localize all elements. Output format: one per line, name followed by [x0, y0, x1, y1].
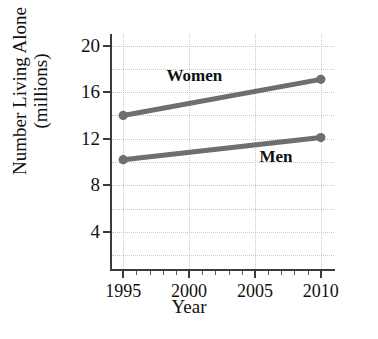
- data-point-men-2010: [316, 133, 325, 142]
- x-axis-title: Year: [0, 296, 378, 318]
- y-axis-title-line-2: (millions): [31, 54, 52, 129]
- y-axis-tick-label: 12: [81, 128, 100, 150]
- line-chart-figure: g Number Living Alone (millions) WomenMe…: [0, 0, 378, 339]
- plot-area: WomenMen 481216201995200020052010: [110, 34, 334, 270]
- y-axis-tick-label: 20: [81, 35, 100, 57]
- y-axis-tick-label: 16: [81, 81, 100, 103]
- x-axis-line: [110, 269, 335, 271]
- y-axis-title: Number Living Alone (millions): [0, 0, 62, 201]
- series-label-women: Women: [166, 66, 222, 86]
- data-point-men-1995: [119, 155, 128, 164]
- data-point-women-2010: [316, 75, 325, 84]
- data-point-women-1995: [119, 111, 128, 120]
- y-axis-tick-label: 8: [91, 174, 101, 196]
- y-axis-title-line-1: Number Living Alone: [10, 7, 31, 175]
- series-label-men: Men: [259, 147, 292, 167]
- y-axis-tick-label: 4: [91, 221, 101, 243]
- y-axis-line: [110, 34, 112, 271]
